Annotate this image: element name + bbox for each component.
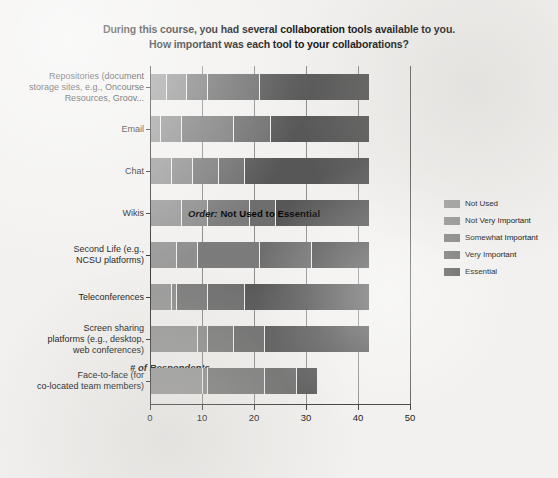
category-label: Second Life (e.g., NCSU platforms)	[4, 244, 144, 266]
bar-segment[interactable]	[167, 74, 188, 100]
legend-label: Somewhat Important	[465, 233, 538, 242]
x-tick-50	[410, 405, 411, 410]
plot-area: 01020304050 Order: Not Used to Essential	[150, 66, 410, 404]
x-tick-10	[202, 405, 203, 410]
bar-row[interactable]	[151, 368, 317, 394]
legend-item[interactable]: Not Used	[444, 196, 538, 211]
legend-swatch	[444, 200, 460, 208]
bar-segment[interactable]	[151, 200, 182, 226]
legend-label: Not Very Important	[465, 216, 531, 225]
bar-segment[interactable]	[234, 116, 270, 142]
bar-segment[interactable]	[245, 158, 370, 184]
bar-row[interactable]	[151, 284, 369, 310]
bar-segment[interactable]	[151, 242, 177, 268]
bar-segment[interactable]	[312, 242, 369, 268]
legend-item[interactable]: Somewhat Important	[444, 230, 538, 245]
category-label: Chat	[4, 166, 144, 177]
bar-segment[interactable]	[151, 326, 198, 352]
x-tick-30	[306, 405, 307, 410]
bar-segment[interactable]	[198, 242, 260, 268]
legend-label: Very Important	[465, 250, 516, 259]
bar-segment[interactable]	[271, 116, 370, 142]
x-tick-label-20: 20	[249, 412, 260, 423]
x-tick-label-50: 50	[405, 412, 416, 423]
bar-stack	[151, 368, 317, 394]
bar-row[interactable]	[151, 158, 369, 184]
bar-segment[interactable]	[177, 284, 208, 310]
bar-stack	[151, 326, 369, 352]
bar-segment[interactable]	[260, 242, 312, 268]
bar-segment[interactable]	[219, 158, 245, 184]
bar-segment[interactable]	[182, 116, 234, 142]
x-axis-line	[150, 404, 411, 405]
category-label: Teleconferences	[4, 292, 144, 303]
legend-item[interactable]: Essential	[444, 264, 538, 279]
bar-segment[interactable]	[297, 368, 318, 394]
order-annotation-prefix: Order:	[188, 208, 218, 219]
bar-segment[interactable]	[151, 284, 172, 310]
bar-stack	[151, 158, 369, 184]
bar-segment[interactable]	[161, 116, 182, 142]
bar-segment[interactable]	[187, 74, 208, 100]
bar-segment[interactable]	[198, 326, 208, 352]
bar-segment[interactable]	[172, 158, 193, 184]
bar-segment[interactable]	[234, 326, 265, 352]
bar-stack	[151, 242, 369, 268]
chart-title: During this course, you had several coll…	[0, 22, 558, 52]
category-label: Email	[4, 124, 144, 135]
bar-segment[interactable]	[193, 158, 219, 184]
x-tick-label-0: 0	[147, 412, 152, 423]
legend-swatch	[444, 268, 460, 276]
bar-segment[interactable]	[151, 368, 203, 394]
legend-label: Essential	[465, 267, 497, 276]
bar-segment[interactable]	[177, 242, 198, 268]
bar-segment[interactable]	[260, 74, 369, 100]
category-label: Wikis	[4, 208, 144, 219]
x-tick-0	[150, 405, 151, 410]
bar-segment[interactable]	[245, 284, 370, 310]
bar-stack	[151, 116, 369, 142]
bar-row[interactable]	[151, 242, 369, 268]
bar-segment[interactable]	[208, 368, 265, 394]
bar-segment[interactable]	[151, 158, 172, 184]
bar-row[interactable]	[151, 326, 369, 352]
category-label: Face-to-face (for co-located team member…	[4, 370, 144, 392]
x-tick-20	[254, 405, 255, 410]
bar-segment[interactable]	[208, 326, 234, 352]
x-tick-label-40: 40	[353, 412, 364, 423]
plot-right-border	[410, 66, 411, 404]
bar-segment[interactable]	[208, 74, 260, 100]
chart-title-line-2: How important was each tool to your coll…	[0, 37, 558, 52]
bar-segment[interactable]	[151, 116, 161, 142]
chart-title-line-1: During this course, you had several coll…	[103, 23, 455, 35]
bar-segment[interactable]	[265, 326, 369, 352]
bar-segment[interactable]	[151, 74, 167, 100]
bar-segment[interactable]	[208, 284, 244, 310]
x-tick-40	[358, 405, 359, 410]
bar-row[interactable]	[151, 74, 369, 100]
chart-legend: Not UsedNot Very ImportantSomewhat Impor…	[444, 196, 538, 281]
bar-segment[interactable]	[265, 368, 296, 394]
legend-swatch	[444, 217, 460, 225]
order-annotation: Order: Not Used to Essential	[188, 208, 320, 219]
category-label: Repositories (document storage sites, e.…	[4, 71, 144, 104]
category-label: Screen sharing platforms (e.g., desktop,…	[4, 323, 144, 356]
x-tick-label-10: 10	[197, 412, 208, 423]
legend-label: Not Used	[465, 199, 498, 208]
legend-swatch	[444, 251, 460, 259]
legend-item[interactable]: Not Very Important	[444, 213, 538, 228]
order-annotation-text: Not Used to Essential	[218, 208, 321, 219]
bar-row[interactable]	[151, 116, 369, 142]
bar-stack	[151, 284, 369, 310]
legend-swatch	[444, 234, 460, 242]
bar-stack	[151, 74, 369, 100]
x-tick-label-30: 30	[301, 412, 312, 423]
legend-item[interactable]: Very Important	[444, 247, 538, 262]
